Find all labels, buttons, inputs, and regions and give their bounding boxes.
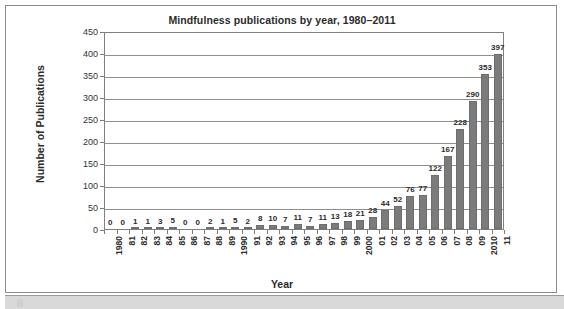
bar-value-label: 7	[283, 215, 287, 224]
x-tick-label: 85	[177, 236, 187, 245]
x-tick-label: 86	[189, 236, 199, 245]
bar-value-label: 2	[208, 217, 212, 226]
bar[interactable]	[256, 225, 264, 229]
x-tick-label: 92	[264, 236, 274, 245]
bar-slot: 76	[404, 32, 417, 229]
x-tick-mark	[354, 230, 355, 234]
bar[interactable]	[319, 224, 327, 229]
bar[interactable]	[356, 220, 364, 229]
bar[interactable]	[331, 223, 339, 229]
x-tick-mark	[254, 230, 255, 234]
bar[interactable]	[419, 195, 427, 229]
bar[interactable]	[344, 221, 352, 229]
x-tick-mark	[167, 230, 168, 234]
bar[interactable]	[219, 227, 227, 229]
x-tick-mark	[117, 230, 118, 234]
x-tick-mark	[367, 230, 368, 234]
bar-slot: 1	[217, 32, 230, 229]
bar-value-label: 290	[466, 90, 479, 99]
bar[interactable]	[131, 227, 139, 229]
bar[interactable]	[431, 175, 439, 229]
bar-slot: 0	[192, 32, 205, 229]
x-axis-title: Year	[6, 278, 558, 290]
figure-frame: Mindfulness publications by year, 1980–2…	[5, 5, 557, 293]
bar[interactable]	[406, 196, 414, 229]
bar-value-label: 52	[393, 195, 402, 204]
bar[interactable]	[481, 74, 489, 229]
bar-slot: 1	[129, 32, 142, 229]
bar-value-label: 228	[454, 118, 467, 127]
x-tick-label: 94	[289, 236, 299, 245]
y-tick-label: 400	[58, 49, 98, 59]
x-tick-label: 07	[452, 236, 462, 245]
x-tick-label: 83	[152, 236, 162, 245]
bar[interactable]	[469, 101, 477, 229]
x-tick-label: 2000	[364, 236, 374, 255]
y-axis-title: Number of Publications	[34, 44, 46, 204]
bar[interactable]	[369, 217, 377, 229]
x-tick-label: 03	[402, 236, 412, 245]
x-tick-mark	[204, 230, 205, 234]
x-tick-label: 1980	[114, 236, 124, 255]
bar-slot: 1	[142, 32, 155, 229]
y-tick-mark	[100, 208, 104, 209]
bar[interactable]	[169, 227, 177, 229]
bar-slot: 21	[354, 32, 367, 229]
x-tick-mark	[454, 230, 455, 234]
x-tick-label: 95	[302, 236, 312, 245]
bar[interactable]	[206, 227, 214, 229]
bar-value-label: 167	[441, 145, 454, 154]
bar[interactable]	[456, 129, 464, 229]
bar-value-label: 21	[356, 209, 365, 218]
x-tick-label: 04	[414, 236, 424, 245]
x-tick-mark	[179, 230, 180, 234]
bar-value-label: 10	[268, 214, 277, 223]
bar-slot: 0	[179, 32, 192, 229]
x-tick-mark	[329, 230, 330, 234]
y-tick-label: 300	[58, 93, 98, 103]
bar[interactable]	[294, 224, 302, 229]
bar[interactable]	[494, 54, 502, 229]
x-tick-label: 01	[377, 236, 387, 245]
x-tick-label: 05	[427, 236, 437, 245]
x-tick-mark	[492, 230, 493, 234]
bar[interactable]	[394, 206, 402, 229]
y-tick-mark	[100, 98, 104, 99]
bar[interactable]	[381, 210, 389, 229]
bar-slot: 228	[454, 32, 467, 229]
bar[interactable]	[444, 156, 452, 229]
bar[interactable]	[281, 226, 289, 229]
x-tick-mark	[479, 230, 480, 234]
x-tick-label: 09	[477, 236, 487, 245]
bar-value-label: 8	[258, 214, 262, 223]
bar-slot: 2	[204, 32, 217, 229]
bar-slot: 5	[167, 32, 180, 229]
y-tick-mark	[100, 230, 104, 231]
x-axis-layer: 1980818283848586878889199091929394959697…	[104, 230, 504, 278]
chart-title: Mindfulness publications by year, 1980–2…	[6, 14, 558, 26]
bar[interactable]	[306, 226, 314, 229]
bar-value-label: 18	[343, 210, 352, 219]
y-tick-mark	[100, 76, 104, 77]
bar-slot: 77	[417, 32, 430, 229]
bar-slot: 122	[429, 32, 442, 229]
bar-slot: 7	[279, 32, 292, 229]
bar[interactable]	[156, 227, 164, 229]
x-tick-label: 93	[277, 236, 287, 245]
bar-value-label: 44	[381, 199, 390, 208]
y-tick-label: 350	[58, 71, 98, 81]
bar[interactable]	[269, 225, 277, 229]
bar-value-label: 2	[246, 217, 250, 226]
bar-slot: 5	[229, 32, 242, 229]
bar[interactable]	[144, 227, 152, 229]
bar[interactable]	[244, 227, 252, 229]
x-tick-mark	[129, 230, 130, 234]
bar-slot: 3	[154, 32, 167, 229]
bar-value-label: 0	[196, 218, 200, 227]
x-tick-mark	[467, 230, 468, 234]
bar-value-label: 11	[319, 213, 327, 222]
y-tick-mark	[100, 186, 104, 187]
bar[interactable]	[231, 227, 239, 229]
y-tick-label: 250	[58, 115, 98, 125]
bar-value-label: 5	[171, 216, 175, 225]
